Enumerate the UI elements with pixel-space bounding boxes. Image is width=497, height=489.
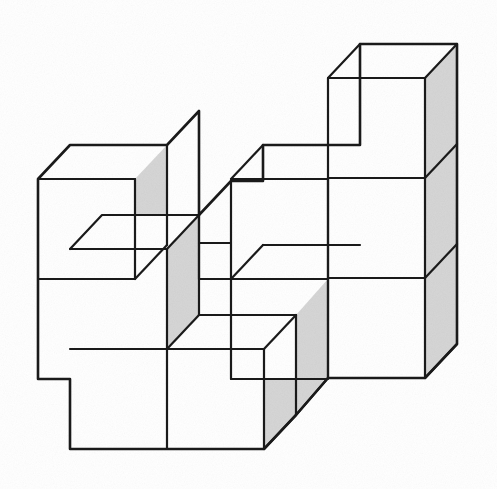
isometric-figure-root: Isometric stacked unit cubes Axonometric… bbox=[0, 0, 497, 489]
cube-stack-drawing: Isometric stacked unit cubes Axonometric… bbox=[0, 0, 497, 489]
